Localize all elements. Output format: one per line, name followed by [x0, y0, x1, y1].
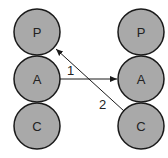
right-node-p-label: P	[137, 25, 146, 40]
right-node-p: P	[118, 9, 164, 55]
left-node-p-label: P	[33, 25, 42, 40]
pac-diagram: P A C P A C 1 2	[0, 0, 168, 158]
arrow-2-label: 2	[99, 97, 106, 112]
arrow-2: 2	[56, 49, 124, 112]
arrow-1: 1	[60, 63, 117, 79]
right-node-a-label: A	[137, 72, 146, 87]
left-column: P A C	[14, 9, 60, 149]
left-node-p: P	[14, 9, 60, 55]
right-node-c-label: C	[136, 119, 145, 134]
left-node-c-label: C	[32, 119, 41, 134]
left-node-a: A	[14, 56, 60, 102]
right-node-a: A	[118, 56, 164, 102]
right-column: P A C	[118, 9, 164, 149]
left-node-a-label: A	[33, 72, 42, 87]
left-node-c: C	[14, 103, 60, 149]
right-node-c: C	[118, 103, 164, 149]
